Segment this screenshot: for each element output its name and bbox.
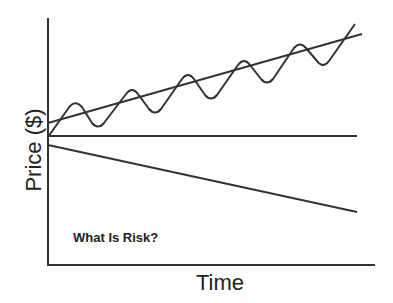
y-axis-label: Price ($) bbox=[21, 108, 47, 191]
chart-annotation: What Is Risk? bbox=[73, 230, 158, 245]
uptrend-line bbox=[48, 34, 362, 123]
x-axis-label: Time bbox=[196, 270, 244, 296]
chart-canvas bbox=[0, 0, 393, 303]
risk-diagram: Price ($) Time What Is Risk? bbox=[0, 0, 393, 303]
downtrend-line bbox=[48, 145, 357, 212]
